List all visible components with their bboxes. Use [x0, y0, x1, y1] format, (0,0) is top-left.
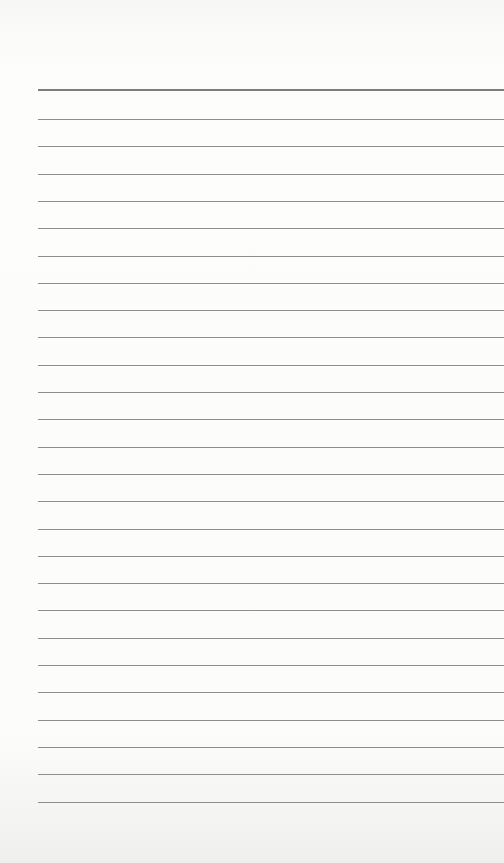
ruled-line: [38, 665, 504, 666]
ruled-line: [38, 337, 504, 338]
ruled-line: [38, 310, 504, 311]
lined-paper: [0, 0, 504, 863]
ruled-line: [38, 392, 504, 393]
ruled-line: [38, 201, 504, 202]
ruled-line: [38, 583, 504, 584]
ruled-line: [38, 638, 504, 639]
ruled-line: [38, 529, 504, 530]
ruled-line: [38, 174, 504, 175]
ruled-line: [38, 419, 504, 420]
ruled-line: [38, 283, 504, 284]
ruled-line: [38, 610, 504, 611]
ruled-line: [38, 501, 504, 502]
ruled-line: [38, 256, 504, 257]
ruled-line: [38, 747, 504, 748]
ruled-line: [38, 146, 504, 147]
ruled-line: [38, 720, 504, 721]
ruled-line: [38, 556, 504, 557]
header-rule-line: [38, 89, 504, 91]
ruled-line: [38, 692, 504, 693]
ruled-line: [38, 365, 504, 366]
ruled-line: [38, 802, 504, 803]
ruled-line: [38, 447, 504, 448]
ruled-line: [38, 228, 504, 229]
ruled-line: [38, 119, 504, 120]
ruled-line: [38, 774, 504, 775]
ruled-line: [38, 474, 504, 475]
